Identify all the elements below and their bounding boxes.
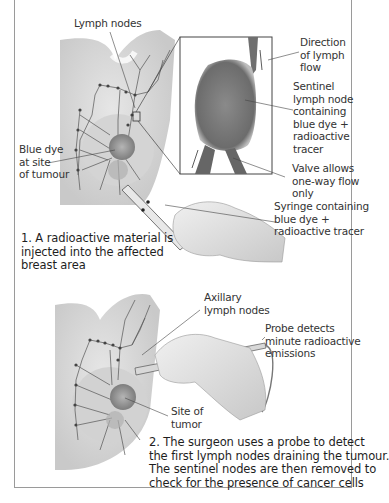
caption-step-1: 1. A radioactive material is injected in… (21, 232, 173, 273)
torso-panel-2 (55, 294, 160, 470)
caption-line: the first lymph nodes draining the tumou… (149, 450, 389, 464)
label-line: emissions (265, 347, 360, 360)
label-line: Probe detects (265, 322, 360, 335)
label-line: at site (19, 156, 69, 169)
label-line: tumor (171, 418, 203, 431)
label-line: radioactive (293, 130, 353, 143)
areola-1 (108, 160, 128, 180)
label-probe: Probe detects minute radioactive emissio… (265, 322, 360, 360)
label-line: lymph nodes (204, 304, 270, 317)
label-line: Sentinel (293, 80, 353, 93)
label-line: radioactive tracer (274, 225, 369, 238)
label-syringe: Syringe containing blue dye + radioactiv… (274, 200, 369, 238)
label-lymph-nodes: Lymph nodes (74, 17, 141, 30)
label-line: blue dye + (274, 213, 369, 226)
label-line: one-way flow (292, 175, 359, 188)
label-line: tracer (293, 143, 353, 156)
tumour-site-1 (109, 134, 135, 160)
caption-line: injected into the affected (21, 246, 173, 260)
label-line: Site of (171, 405, 203, 418)
label-site-of-tumor: Site of tumor (171, 405, 203, 430)
label-line: Lymph nodes (74, 17, 141, 30)
tumour-site-2 (110, 384, 136, 410)
label-line: Syringe containing (274, 200, 369, 213)
areola-2 (106, 411, 124, 429)
label-line: Valve allows (292, 162, 359, 175)
label-line: of lymph (300, 49, 346, 62)
label-line: minute radioactive (265, 335, 360, 348)
label-line: only (292, 187, 359, 200)
label-line: Blue dye (19, 143, 69, 156)
label-valve: Valve allows one-way flow only (292, 162, 359, 200)
caption-line: 1. A radioactive material is (21, 232, 173, 246)
caption-line: check for the presence of cancer cells (149, 477, 389, 491)
label-line: blue dye + (293, 118, 353, 131)
gloved-hand-1 (173, 202, 285, 262)
label-line: flow (300, 61, 346, 74)
label-line: lymph node (293, 93, 353, 106)
label-line: Direction (300, 36, 346, 49)
label-axillary-nodes: Axillary lymph nodes (204, 291, 270, 316)
label-sentinel-node: Sentinel lymph node containing blue dye … (293, 80, 353, 155)
caption-line: 2. The surgeon uses a probe to detect (149, 436, 389, 450)
label-line: Axillary (204, 291, 270, 304)
caption-step-2: 2. The surgeon uses a probe to detect th… (149, 436, 389, 490)
label-direction-of-flow: Direction of lymph flow (300, 36, 346, 74)
label-blue-dye: Blue dye at site of tumour (19, 143, 69, 181)
label-line: of tumour (19, 168, 69, 181)
caption-line: breast area (21, 259, 173, 273)
label-line: containing (293, 105, 353, 118)
caption-line: The sentinel nodes are then removed to (149, 463, 389, 477)
